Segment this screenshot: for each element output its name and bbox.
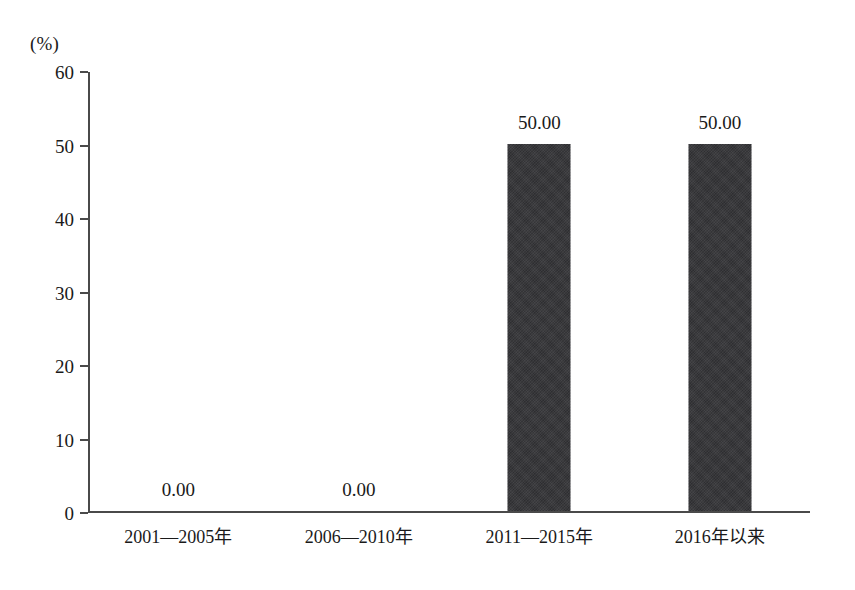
- x-axis-category-label: 2011—2015年: [449, 528, 630, 548]
- bar-value-label: 50.00: [518, 113, 561, 132]
- y-axis-tick: [80, 71, 88, 73]
- y-axis-tick: [80, 365, 88, 367]
- y-axis-tick: [80, 292, 88, 294]
- y-axis-tick-label: 60: [55, 63, 74, 82]
- bar-slot: 0.00: [269, 72, 450, 511]
- y-axis-unit-label: (%): [30, 34, 59, 53]
- bar-value-label: 50.00: [698, 113, 741, 132]
- y-axis-tick-label: 50: [55, 136, 74, 155]
- y-axis-tick-label: 40: [55, 210, 74, 229]
- y-axis-tick: [80, 439, 88, 441]
- y-axis-tick: [80, 512, 88, 514]
- x-axis-category-label: 2006—2010年: [269, 528, 450, 548]
- plot-area: 6050403020100 0.000.0050.0050.00: [88, 72, 810, 513]
- x-axis-category-labels: 2001—2005年2006—2010年2011—2015年2016年以来: [88, 528, 810, 548]
- bar-slot: 0.00: [88, 72, 269, 511]
- y-axis-tick-label: 20: [55, 357, 74, 376]
- bar-value-label: 0.00: [162, 480, 195, 499]
- bars-layer: 0.000.0050.0050.00: [88, 72, 810, 511]
- bar-chart-figure: (%) 6050403020100 0.000.0050.0050.00 200…: [0, 0, 855, 590]
- bar-slot: 50.00: [449, 72, 630, 511]
- y-axis-tick: [80, 218, 88, 220]
- y-axis-tick-label: 10: [55, 430, 74, 449]
- y-axis-tick: [80, 145, 88, 147]
- x-axis-line: [88, 511, 810, 513]
- bar[interactable]: [508, 144, 571, 512]
- bar-slot: 50.00: [630, 72, 811, 511]
- y-axis-tick-label: 0: [65, 504, 75, 523]
- y-axis-tick-label: 30: [55, 283, 74, 302]
- x-axis-category-label: 2001—2005年: [88, 528, 269, 548]
- bar-value-label: 0.00: [342, 480, 375, 499]
- bar[interactable]: [688, 144, 751, 512]
- x-axis-category-label: 2016年以来: [630, 528, 811, 548]
